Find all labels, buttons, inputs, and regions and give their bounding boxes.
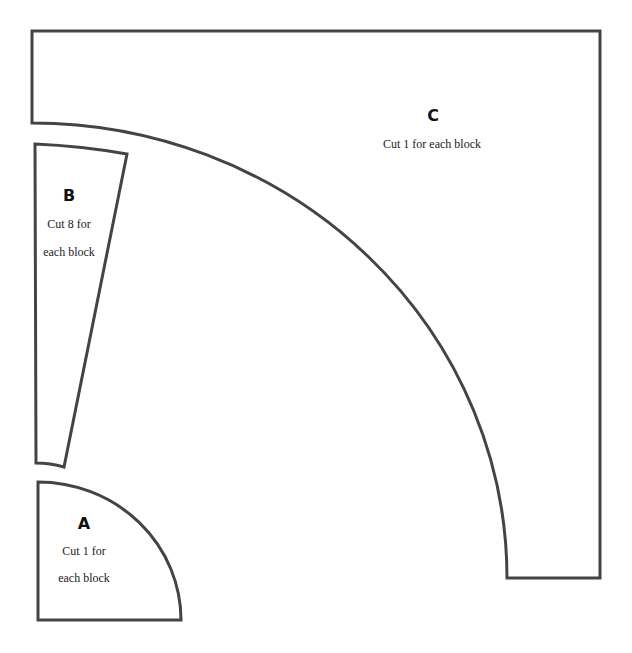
- piece-c-label: C: [427, 106, 439, 125]
- piece-b-outline: [35, 144, 127, 467]
- piece-a-caption-line2: each block: [58, 572, 110, 584]
- piece-b-label: B: [63, 186, 75, 205]
- piece-c-outline: [32, 31, 600, 578]
- piece-c-caption: Cut 1 for each block: [383, 138, 481, 150]
- piece-a-caption-line1: Cut 1 for: [62, 545, 105, 557]
- piece-b-caption-line1: Cut 8 for: [47, 218, 90, 230]
- piece-b-caption-line2: each block: [43, 246, 95, 258]
- piece-a-label: A: [78, 514, 90, 533]
- piece-a-outline: [38, 482, 181, 620]
